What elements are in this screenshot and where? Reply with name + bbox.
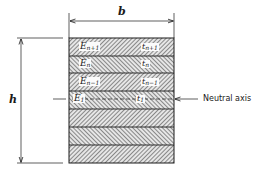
modulus-symbol: E bbox=[80, 76, 87, 86]
modulus-subscript: n−1 bbox=[87, 79, 100, 86]
width-label: b bbox=[118, 6, 126, 17]
layer-5 bbox=[69, 109, 174, 127]
layer-7 bbox=[69, 145, 174, 163]
height-label: h bbox=[9, 94, 17, 105]
modulus-label-n-minus-1: En−1 bbox=[79, 77, 100, 86]
height-dimension bbox=[17, 38, 63, 163]
modulus-label-n-plus-1: En+1 bbox=[79, 42, 100, 51]
modulus-subscript: 1 bbox=[81, 96, 85, 103]
layer-6 bbox=[69, 127, 174, 145]
thickness-label-n-minus-1: tn−1 bbox=[141, 78, 159, 86]
modulus-label-1: E1 bbox=[73, 94, 85, 103]
modulus-subscript: n+1 bbox=[87, 44, 100, 51]
thickness-label-1: t1 bbox=[136, 95, 145, 103]
modulus-symbol: E bbox=[80, 58, 87, 68]
modulus-symbol: E bbox=[74, 93, 81, 103]
thickness-label-n: tn bbox=[141, 60, 150, 68]
thickness-subscript: 1 bbox=[140, 96, 144, 103]
modulus-subscript: n bbox=[87, 61, 91, 68]
thickness-subscript: n−1 bbox=[145, 79, 158, 86]
modulus-label-n: En bbox=[79, 59, 91, 68]
thickness-label-n-plus-1: tn+1 bbox=[141, 43, 159, 51]
modulus-symbol: E bbox=[80, 41, 87, 51]
beam-cross-section-diagram bbox=[0, 0, 265, 175]
thickness-subscript: n+1 bbox=[145, 44, 158, 51]
thickness-subscript: n bbox=[145, 61, 149, 68]
neutral-axis-label: Neutral axis bbox=[203, 95, 251, 103]
